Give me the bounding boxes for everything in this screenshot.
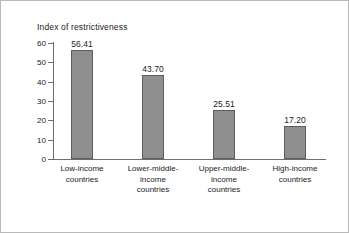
y-axis-tick bbox=[48, 120, 53, 121]
y-axis-tick-label: 30 bbox=[6, 97, 46, 106]
y-axis-line bbox=[53, 42, 54, 160]
bar-value-label: 17.20 bbox=[265, 115, 325, 125]
x-axis-label-line: countries bbox=[185, 185, 263, 196]
x-axis-label-line: countries bbox=[256, 175, 334, 186]
bar-value-label: 43.70 bbox=[123, 64, 183, 74]
y-axis-tick bbox=[48, 140, 53, 141]
x-axis-line bbox=[53, 159, 326, 160]
x-axis-label-upper-middle-income: Upper-middle- income countries bbox=[185, 164, 263, 196]
y-axis-tick-label: 60 bbox=[6, 39, 46, 48]
plot-area: 0 10 20 30 40 50 60 56.41 43.70 25.51 17… bbox=[1, 1, 349, 233]
y-axis-tick bbox=[48, 82, 53, 83]
bar-lower-middle-income[interactable] bbox=[142, 75, 164, 160]
y-axis-tick bbox=[48, 159, 53, 160]
bar-value-label: 25.51 bbox=[194, 99, 254, 109]
x-axis-label-low-income: Low-income countries bbox=[43, 164, 121, 185]
y-axis-tick-label: 10 bbox=[6, 135, 46, 144]
y-axis-tick bbox=[48, 101, 53, 102]
bar-high-income[interactable] bbox=[284, 126, 306, 159]
x-axis-label-lower-middle-income: Lower-middle- income countries bbox=[114, 164, 192, 196]
bar-upper-middle-income[interactable] bbox=[213, 110, 235, 159]
chart-figure: Index of restrictiveness 0 10 20 30 40 5… bbox=[0, 0, 349, 233]
x-axis-label-line: countries bbox=[114, 185, 192, 196]
x-axis-label-line: countries bbox=[43, 175, 121, 186]
y-axis-tick-label: 0 bbox=[6, 155, 46, 164]
x-axis-label-line: income bbox=[114, 175, 192, 186]
bar-low-income[interactable] bbox=[71, 50, 93, 159]
x-axis-label-line: High-income bbox=[256, 164, 334, 175]
x-axis-label-line: Low-income bbox=[43, 164, 121, 175]
x-axis-label-line: income bbox=[185, 175, 263, 186]
x-axis-label-high-income: High-income countries bbox=[256, 164, 334, 185]
x-axis-label-line: Upper-middle- bbox=[185, 164, 263, 175]
x-axis-label-line: Lower-middle- bbox=[114, 164, 192, 175]
y-axis-tick-label: 20 bbox=[6, 116, 46, 125]
y-axis-tick-label: 50 bbox=[6, 58, 46, 67]
y-axis-tick-label: 40 bbox=[6, 77, 46, 86]
y-axis-tick bbox=[48, 62, 53, 63]
bar-value-label: 56.41 bbox=[52, 39, 112, 49]
